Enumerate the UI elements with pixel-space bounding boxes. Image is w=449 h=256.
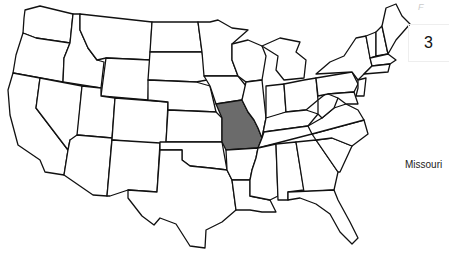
state-maine <box>382 4 410 54</box>
state-new-mexico <box>107 140 160 196</box>
page-number: 3 <box>424 34 433 52</box>
state-label: Missouri <box>405 159 442 170</box>
state-michigan <box>262 38 306 80</box>
state-kansas <box>166 110 222 142</box>
state-arizona <box>64 135 112 196</box>
state-new-jersey <box>356 78 366 96</box>
state-north-dakota <box>150 22 202 52</box>
state-wyoming <box>101 58 150 100</box>
state-south-dakota <box>148 52 207 82</box>
state-florida <box>288 190 358 244</box>
state-ohio <box>284 78 318 112</box>
state-colorado <box>112 98 168 145</box>
corner-mark: F <box>418 2 424 12</box>
